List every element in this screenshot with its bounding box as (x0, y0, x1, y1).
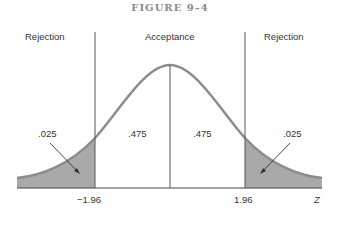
right-tail-area-label: .025 (283, 128, 302, 139)
left-center-area-label: .475 (128, 128, 147, 139)
left-critical-value: −1.96 (77, 194, 101, 205)
right-region-label: Rejection (264, 31, 304, 42)
right-critical-value: 1.96 (234, 194, 253, 205)
center-region-label: Acceptance (145, 31, 195, 42)
left-tail-shade (17, 138, 95, 188)
left-region-label: Rejection (25, 31, 65, 42)
right-tail-shade (245, 138, 322, 188)
left-tail-area-label: .025 (38, 128, 57, 139)
right-center-area-label: .475 (193, 128, 212, 139)
z-axis-label: Z (314, 194, 320, 205)
